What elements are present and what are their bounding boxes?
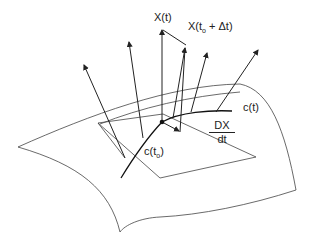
normal-vector-2 (129, 42, 143, 138)
dt-denominator: dt (209, 133, 235, 146)
diagram-canvas (0, 0, 310, 245)
normal-vector-1 (84, 65, 125, 158)
difference-vector (163, 30, 186, 45)
x-t0-dt-vector-outer (191, 53, 207, 112)
label-c-t: c(t) (243, 101, 259, 113)
label-dx-dt: DX dt (209, 119, 235, 146)
label-c-t0: c(to) (144, 145, 164, 159)
label-x-t: X(t) (154, 11, 172, 23)
dx-numerator: DX (209, 119, 235, 133)
derivative-arrow (162, 122, 179, 131)
label-x-t0-dt: X(to + Δt) (188, 20, 233, 34)
point-c-t0 (160, 120, 165, 125)
